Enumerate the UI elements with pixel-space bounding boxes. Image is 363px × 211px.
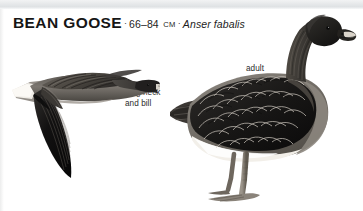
annotation-adult: adult: [246, 64, 264, 75]
flying-bean-goose-illustration: [8, 52, 160, 180]
field-guide-page: BEAN GOOSE·66–84 CM·Anser fabalis long n…: [0, 0, 363, 211]
left-edge-shading: [0, 9, 4, 211]
annotation-long-neck-line-2: and bill: [125, 99, 161, 110]
species-common-name: BEAN GOOSE: [13, 14, 122, 31]
standing-adult-bean-goose-illustration: [168, 8, 360, 204]
annotation-long-neck-and-bill: long neck and bill: [125, 88, 161, 110]
annotation-long-neck-line-1: long neck: [125, 88, 161, 99]
title-separator-2: ·: [176, 18, 183, 28]
species-size-unit: CM: [163, 20, 176, 29]
illustration-plate: [0, 0, 363, 211]
page-title: BEAN GOOSE·66–84 CM·Anser fabalis: [13, 15, 245, 31]
species-size-range: 66–84: [129, 18, 159, 30]
species-scientific-name: Anser fabalis: [183, 18, 245, 30]
top-gradient-band: [0, 0, 363, 9]
